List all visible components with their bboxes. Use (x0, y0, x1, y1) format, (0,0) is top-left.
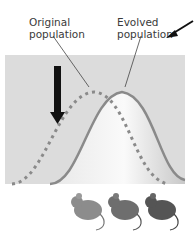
mouse-icon (108, 193, 141, 230)
pointer-arrow-icon (166, 21, 193, 38)
mouse-icon (71, 193, 104, 230)
population-diagram (0, 0, 194, 231)
mouse-icon (145, 193, 178, 230)
